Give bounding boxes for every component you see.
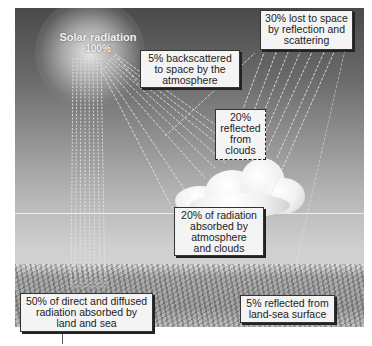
sun-label: Solar radiation 100% <box>43 32 153 54</box>
label-backscattered: 5% backscattered to space by the atmosph… <box>140 50 240 88</box>
label-line: clouds <box>219 145 262 156</box>
label-line: scattering <box>264 35 349 46</box>
label-line: land and sea <box>24 318 149 329</box>
leader-line <box>62 334 63 344</box>
label-line: land-sea surface <box>244 309 331 320</box>
label-absorbed-land-sea: 50% of direct and diffused radiation abs… <box>20 293 153 332</box>
sun-label-value: 100% <box>43 43 153 54</box>
label-line: and clouds <box>178 243 260 254</box>
sun-label-title: Solar radiation <box>43 32 153 43</box>
label-lost-to-space: 30% lost to space by reflection and scat… <box>260 10 353 50</box>
label-reflected-clouds: 20% reflected from clouds <box>215 109 266 160</box>
label-reflected-surface: 5% reflected from land-sea surface <box>240 295 335 323</box>
label-absorbed-atmosphere: 20% of radiation absorbed by atmosphere … <box>174 207 264 256</box>
label-line: atmosphere <box>144 75 236 86</box>
